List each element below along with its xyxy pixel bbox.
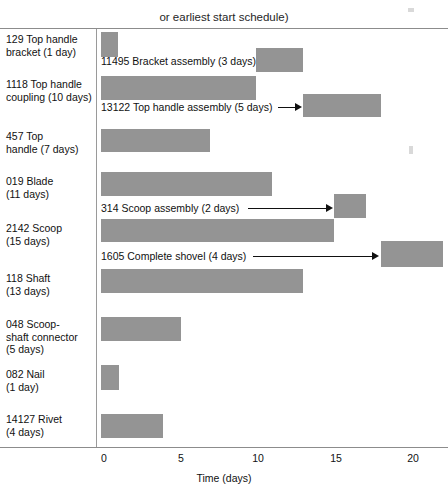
annotation-arrow-line-13122 bbox=[278, 107, 296, 108]
gantt-bar-082 bbox=[101, 365, 119, 390]
gantt-bar-13122 bbox=[303, 94, 381, 117]
gantt-bar-019 bbox=[101, 172, 272, 196]
row-label-048: 048 Scoop- shaft connector (5 days) bbox=[6, 318, 98, 356]
row-label-118: 118 Shaft (13 days) bbox=[6, 272, 98, 297]
gantt-bar-129 bbox=[101, 32, 118, 57]
annotation-1605: 1605 Complete shovel (4 days) bbox=[101, 250, 246, 262]
gantt-bar-048 bbox=[101, 317, 181, 341]
annotation-arrow-head-1605 bbox=[372, 252, 379, 260]
gantt-bar-1118 bbox=[101, 76, 256, 100]
caption-line-2: or earliest start schedule) bbox=[0, 11, 448, 23]
annotation-arrow-line-314 bbox=[248, 208, 327, 209]
gantt-bar-314 bbox=[334, 194, 366, 218]
gantt-bar-118 bbox=[101, 269, 303, 293]
row-label-019: 019 Blade (11 days) bbox=[6, 175, 98, 200]
row-label-082: 082 Nail (1 day) bbox=[6, 368, 98, 393]
row-label-129: 129 Top handle bracket (1 day) bbox=[6, 33, 98, 58]
xtick-0: 0 bbox=[89, 452, 119, 464]
gantt-bar-2142 bbox=[101, 219, 334, 242]
row-label-1118: 1118 Top handle coupling (10 days) bbox=[6, 78, 98, 103]
annotation-arrow-head-13122 bbox=[295, 103, 302, 111]
annotation-arrow-head-314 bbox=[326, 204, 333, 212]
row-label-14127: 14127 Rivet (4 days) bbox=[6, 413, 98, 438]
gantt-bar-457 bbox=[101, 129, 210, 152]
xtick-20: 20 bbox=[398, 452, 428, 464]
gantt-bar-14127 bbox=[101, 414, 163, 438]
gantt-bar-11495 bbox=[256, 48, 303, 72]
x-axis-title: Time (days) bbox=[0, 472, 448, 484]
annotation-11495: 11495 Bracket assembly (3 days) bbox=[101, 55, 256, 67]
scan-speck bbox=[408, 8, 414, 12]
gantt-chart: or earliest start schedule) 129 Top hand… bbox=[0, 0, 448, 495]
bottom-rule bbox=[0, 447, 448, 448]
annotation-arrow-line-1605 bbox=[253, 256, 373, 257]
xtick-5: 5 bbox=[166, 452, 196, 464]
annotation-13122: 13122 Top handle assembly (5 days) bbox=[101, 101, 272, 113]
xtick-15: 15 bbox=[321, 452, 351, 464]
row-label-2142: 2142 Scoop (15 days) bbox=[6, 222, 98, 247]
scan-speck bbox=[409, 146, 413, 154]
xtick-10: 10 bbox=[243, 452, 273, 464]
gantt-bar-1605 bbox=[381, 241, 443, 267]
annotation-314: 314 Scoop assembly (2 days) bbox=[101, 202, 239, 214]
row-label-457: 457 Top handle (7 days) bbox=[6, 130, 98, 155]
top-rule bbox=[0, 28, 448, 29]
